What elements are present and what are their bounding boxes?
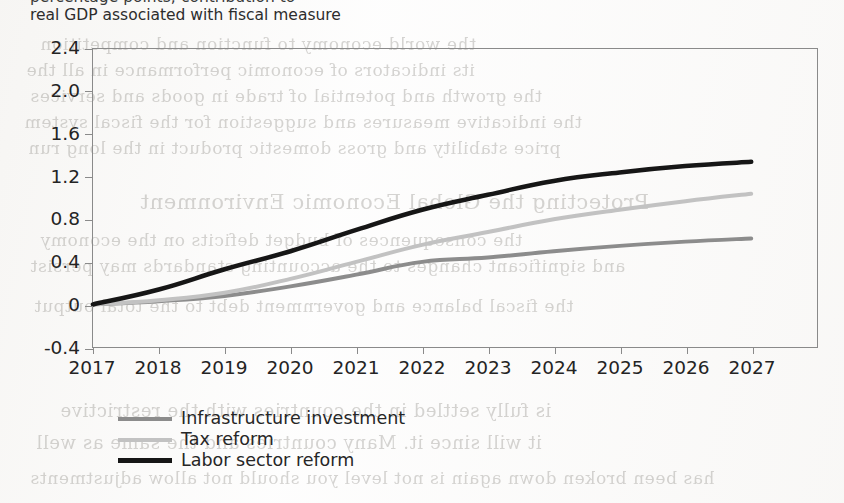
- legend-label: Labor sector reform: [181, 451, 354, 470]
- x-axis-tick-mark: [357, 347, 358, 354]
- y-axis-tick-mark: [85, 134, 93, 135]
- x-axis-tick-label: 2026: [662, 358, 709, 377]
- legend-color-swatch: [118, 438, 172, 442]
- y-axis-tick-mark: [85, 263, 93, 264]
- y-axis-tick-mark: [85, 177, 93, 178]
- x-axis-tick-label: 2022: [398, 358, 445, 377]
- y-axis-tick-mark: [85, 306, 93, 307]
- x-axis-tick-mark: [621, 347, 622, 354]
- legend-color-swatch: [118, 417, 172, 421]
- chart-legend: Infrastructure investmentTax reformLabor…: [118, 408, 405, 471]
- x-axis-tick-label: 2024: [530, 358, 577, 377]
- y-axis-tick-label: 2.4: [51, 39, 80, 58]
- x-axis-tick-mark: [423, 347, 424, 354]
- x-axis-tick-mark: [225, 347, 226, 354]
- x-axis-tick-mark: [555, 347, 556, 354]
- y-axis-tick-label: 2.0: [51, 82, 80, 101]
- x-axis-tick-label: 2018: [134, 358, 181, 377]
- y-axis-tick-label: 0.4: [51, 253, 80, 272]
- x-axis-tick-label: 2020: [266, 358, 313, 377]
- y-axis: -0.400.40.81.21.62.02.4: [0, 0, 92, 400]
- x-axis-tick-mark: [489, 347, 490, 354]
- x-axis-tick-mark: [753, 347, 754, 354]
- y-axis-tick-mark: [85, 49, 93, 50]
- x-axis-tick-label: 2017: [68, 358, 115, 377]
- x-axis-tick-mark: [93, 347, 94, 354]
- legend-label: Infrastructure investment: [181, 409, 405, 428]
- y-axis-tick-label: 0: [68, 296, 80, 315]
- y-axis-tick-mark: [85, 91, 93, 92]
- y-axis-tick-label: -0.4: [44, 339, 80, 358]
- x-axis-tick-mark: [291, 347, 292, 354]
- legend-item[interactable]: Tax reform: [118, 429, 405, 450]
- series-lines: [93, 49, 817, 347]
- series-line: [93, 162, 751, 305]
- x-axis-tick-label: 2025: [596, 358, 643, 377]
- x-axis-tick-label: 2027: [728, 358, 775, 377]
- plot-area: [92, 48, 818, 348]
- legend-label: Tax reform: [181, 430, 274, 449]
- x-axis-tick-label: 2019: [200, 358, 247, 377]
- legend-item[interactable]: Labor sector reform: [118, 450, 405, 471]
- y-axis-tick-mark: [85, 349, 93, 350]
- y-axis-tick-label: 0.8: [51, 210, 80, 229]
- x-axis-tick-mark: [159, 347, 160, 354]
- y-axis-tick-mark: [85, 220, 93, 221]
- series-line: [93, 238, 751, 304]
- legend-item[interactable]: Infrastructure investment: [118, 408, 405, 429]
- y-axis-tick-label: 1.6: [51, 124, 80, 143]
- legend-color-swatch: [118, 458, 172, 463]
- x-axis-tick-label: 2021: [332, 358, 379, 377]
- x-axis-tick-label: 2023: [464, 358, 511, 377]
- y-axis-tick-label: 1.2: [51, 167, 80, 186]
- x-axis-tick-mark: [687, 347, 688, 354]
